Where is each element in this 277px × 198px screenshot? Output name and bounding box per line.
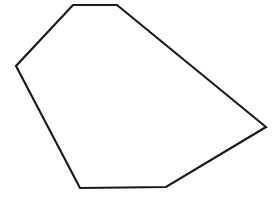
drawing-canvas xyxy=(0,0,277,198)
hexagon-figure xyxy=(0,0,277,198)
